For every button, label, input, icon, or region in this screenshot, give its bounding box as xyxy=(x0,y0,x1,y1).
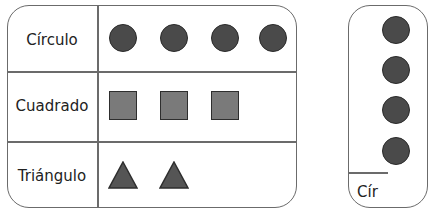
column-label-circulo: Cír xyxy=(357,183,378,201)
square-icon xyxy=(160,91,188,120)
square-icon xyxy=(109,91,137,120)
circle-icon xyxy=(211,24,239,52)
row-label-cuadrado: Cuadrado xyxy=(7,96,97,116)
triangle-icon xyxy=(108,161,138,189)
square-icon xyxy=(211,91,239,120)
circle-icon xyxy=(382,56,410,84)
circle-icon xyxy=(160,24,188,52)
column-divider xyxy=(97,5,99,208)
circle-icon xyxy=(109,24,137,52)
circle-icon xyxy=(382,16,410,44)
triangle-icon xyxy=(159,161,189,189)
row-divider xyxy=(7,71,297,73)
circle-icon xyxy=(382,96,410,124)
row-label-circulo: Círculo xyxy=(7,30,97,50)
row-label-triangulo: Triángulo xyxy=(7,166,97,186)
row-divider xyxy=(7,141,297,143)
circle-icon xyxy=(259,24,287,52)
circle-icon xyxy=(382,137,410,165)
row-divider xyxy=(348,172,388,174)
